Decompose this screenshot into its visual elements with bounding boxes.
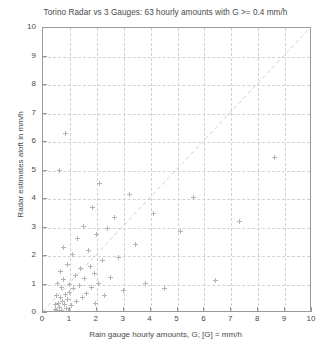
plus-marker	[84, 291, 89, 296]
y-tick-label: 1	[0, 279, 36, 288]
plus-marker	[108, 275, 113, 280]
y-tick-mark	[42, 284, 47, 285]
y-tick-mark	[42, 141, 47, 142]
plus-marker	[61, 277, 66, 282]
plus-marker	[191, 195, 196, 200]
plus-marker	[96, 281, 101, 286]
x-tick-mark	[69, 307, 70, 312]
plus-marker	[74, 299, 79, 304]
data-series	[43, 28, 310, 311]
x-tick-label: 6	[188, 314, 218, 323]
plus-marker	[58, 269, 63, 274]
y-tick-mark	[42, 198, 47, 199]
plus-marker	[59, 285, 64, 290]
y-tick-mark	[42, 170, 47, 171]
x-tick-mark	[96, 307, 97, 312]
plus-marker	[78, 266, 83, 271]
plot-area	[42, 27, 311, 312]
y-tick-mark	[42, 113, 47, 114]
y-tick-mark	[42, 227, 47, 228]
plus-marker	[88, 264, 93, 269]
plus-marker	[151, 211, 156, 216]
x-tick-mark	[123, 307, 124, 312]
plus-marker	[81, 224, 86, 229]
x-tick-label: 1	[54, 314, 84, 323]
plus-marker	[133, 242, 138, 247]
y-tick-mark	[42, 56, 47, 57]
x-tick-mark	[150, 307, 151, 312]
plus-marker	[92, 271, 97, 276]
plus-marker	[80, 295, 85, 300]
plus-marker	[73, 273, 78, 278]
plus-marker	[93, 301, 98, 306]
plus-marker	[75, 236, 80, 241]
plus-marker	[100, 258, 105, 263]
plus-marker	[77, 283, 82, 288]
x-axis-label: Rain gauge hourly amounts, G; [G] = mm/h	[0, 330, 331, 339]
scatter-plot-figure: Torino Radar vs 3 Gauges: 63 hourly amou…	[0, 0, 331, 350]
x-tick-label: 3	[108, 314, 138, 323]
plus-marker	[65, 262, 70, 267]
x-tick-label: 9	[269, 314, 299, 323]
x-tick-label: 4	[135, 314, 165, 323]
x-tick-mark	[257, 307, 258, 312]
x-tick-label: 2	[81, 314, 111, 323]
y-tick-mark	[42, 27, 47, 28]
plus-marker	[116, 255, 121, 260]
y-tick-label: 5	[0, 165, 36, 174]
y-tick-label: 7	[0, 108, 36, 117]
plus-marker	[272, 155, 277, 160]
plus-marker	[105, 226, 110, 231]
x-tick-label: 7	[215, 314, 245, 323]
plus-marker	[90, 205, 95, 210]
plus-marker	[121, 288, 126, 293]
plus-marker	[237, 219, 242, 224]
y-tick-label: 0	[0, 307, 36, 316]
y-tick-label: 4	[0, 193, 36, 202]
y-tick-label: 8	[0, 79, 36, 88]
plus-marker	[97, 181, 102, 186]
plus-marker	[112, 215, 117, 220]
y-tick-label: 9	[0, 51, 36, 60]
plus-marker	[89, 285, 94, 290]
plus-marker	[94, 232, 99, 237]
y-tick-label: 10	[0, 22, 36, 31]
plus-marker	[71, 286, 76, 291]
x-tick-mark	[230, 307, 231, 312]
plus-marker	[82, 276, 87, 281]
y-tick-mark	[42, 312, 47, 313]
x-tick-mark	[311, 307, 312, 312]
plus-marker	[178, 229, 183, 234]
y-tick-mark	[42, 255, 47, 256]
plus-marker	[70, 252, 75, 257]
y-tick-label: 3	[0, 222, 36, 231]
y-tick-label: 2	[0, 250, 36, 259]
x-tick-label: 8	[242, 314, 272, 323]
x-tick-mark	[177, 307, 178, 312]
x-tick-mark	[203, 307, 204, 312]
plus-marker	[143, 281, 148, 286]
x-tick-label: 10	[296, 314, 326, 323]
x-tick-label: 5	[162, 314, 192, 323]
y-tick-label: 6	[0, 136, 36, 145]
plus-marker	[162, 286, 167, 291]
plus-marker	[86, 248, 91, 253]
plus-marker	[65, 297, 70, 302]
plus-marker	[213, 278, 218, 283]
y-tick-mark	[42, 84, 47, 85]
plus-marker	[127, 192, 132, 197]
plus-marker	[102, 293, 107, 298]
plus-marker	[57, 168, 62, 173]
plus-marker	[63, 131, 68, 136]
chart-title: Torino Radar vs 3 Gauges: 63 hourly amou…	[0, 8, 331, 17]
x-tick-mark	[284, 307, 285, 312]
plus-marker	[61, 245, 66, 250]
